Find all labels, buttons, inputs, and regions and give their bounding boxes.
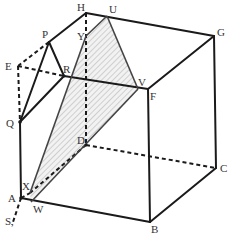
label-X: X xyxy=(22,180,30,192)
label-S: S, xyxy=(5,215,14,227)
label-A: A xyxy=(8,192,16,204)
label-G: G xyxy=(217,26,225,38)
label-B: B xyxy=(151,223,158,235)
label-E: E xyxy=(5,60,12,72)
label-Y: Y xyxy=(77,30,85,42)
label-P: P xyxy=(42,28,48,40)
label-D: D xyxy=(77,134,85,146)
label-Q: Q xyxy=(6,117,14,129)
label-C: C xyxy=(220,162,227,174)
label-H: H xyxy=(77,1,85,13)
label-F: F xyxy=(150,90,156,102)
label-V: V xyxy=(138,76,146,88)
label-U: U xyxy=(109,3,117,15)
label-W: W xyxy=(33,203,44,215)
label-R: R xyxy=(63,63,71,75)
cube-diagram: H U G P Y E R V F Q D C X A W B S, xyxy=(0,0,234,236)
